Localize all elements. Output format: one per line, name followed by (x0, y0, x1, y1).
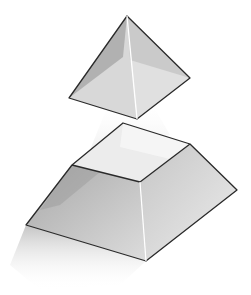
pyramid-svg (0, 0, 251, 295)
pyramid-diagram: Exploded square pyramid (apex pyramid se… (0, 0, 251, 295)
apex-pyramid (69, 16, 190, 119)
